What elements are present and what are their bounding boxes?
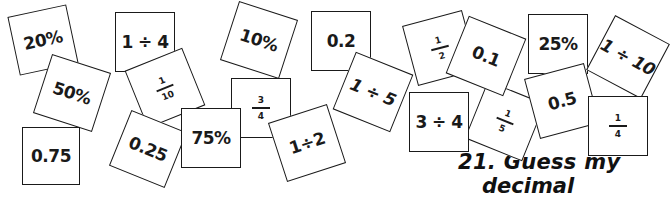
card-75pct: 75% [181, 108, 241, 168]
fraction: 34 [252, 95, 270, 120]
fraction-bar [252, 107, 270, 108]
fraction-bar [609, 125, 627, 126]
card-10pct: 10% [220, 1, 298, 79]
card-075: 0.75 [22, 127, 80, 185]
card-3div4: 3 ÷ 4 [409, 92, 469, 152]
denominator: 2 [438, 50, 447, 61]
card-value: 1 ÷ 10 [597, 34, 658, 79]
fraction: 12 [428, 34, 452, 63]
card-value: 3 ÷ 4 [415, 112, 462, 132]
denominator: 5 [497, 122, 507, 134]
card-value: 1 ÷ 4 [121, 32, 168, 52]
numerator: 1 [503, 108, 513, 120]
denominator: 4 [615, 129, 621, 139]
card-value: 20% [22, 26, 65, 54]
card-value: 0.75 [31, 146, 71, 166]
numerator: 3 [258, 95, 264, 105]
card-value: 0.25 [126, 132, 171, 166]
card-value: 1 ÷ 5 [347, 74, 398, 110]
numerator: 1 [434, 35, 443, 46]
card-value: 1÷2 [287, 128, 328, 158]
exercise-heading-continued: decimal [482, 174, 574, 198]
card-value: 25% [538, 34, 577, 54]
numerator: 1 [615, 113, 621, 123]
card-025: 0.25 [109, 110, 187, 188]
fraction: 15 [492, 106, 518, 136]
denominator: 4 [258, 111, 264, 121]
fraction: 14 [609, 113, 627, 138]
denominator: 10 [160, 88, 175, 102]
card-value: 0.2 [327, 31, 356, 51]
fraction: 110 [152, 73, 178, 103]
card-value: 0.5 [546, 88, 579, 115]
card-value: 50% [50, 77, 93, 108]
card-1over4: 14 [588, 96, 648, 156]
numerator: 1 [157, 75, 167, 87]
card-value: 75% [191, 128, 230, 148]
card-value: 0.1 [469, 41, 503, 70]
card-1div10: 1 ÷ 10 [586, 15, 670, 99]
card-value: 10% [237, 24, 280, 55]
